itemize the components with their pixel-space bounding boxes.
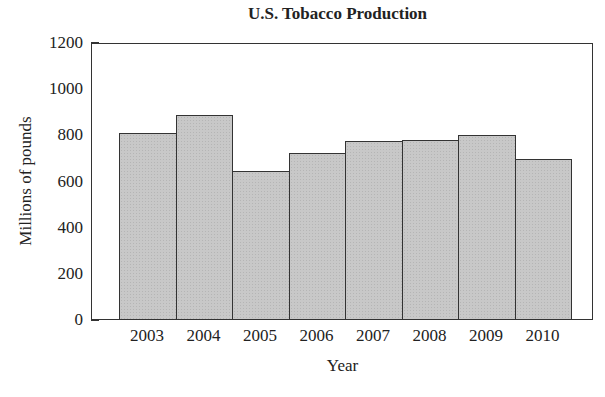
bar-2004 — [176, 115, 234, 319]
y-tick-label: 1200 — [49, 33, 83, 53]
y-axis-label: Millions of pounds — [16, 116, 36, 245]
y-tick-label: 600 — [58, 172, 84, 192]
x-tick-label: 2004 — [176, 326, 232, 346]
y-tick-label: 800 — [58, 125, 84, 145]
x-tick-label: 2006 — [289, 326, 345, 346]
bar-2006 — [289, 153, 347, 319]
x-tick-label: 2007 — [345, 326, 401, 346]
bar-2010 — [515, 159, 573, 319]
x-tick-label: 2008 — [402, 326, 458, 346]
y-tick-label: 0 — [75, 310, 84, 330]
x-tick-label: 2005 — [232, 326, 288, 346]
bar-2005 — [232, 171, 290, 319]
x-tick-label: 2010 — [515, 326, 571, 346]
x-axis-label: Year — [0, 356, 605, 376]
plot-area — [91, 43, 593, 320]
bar-2007 — [345, 141, 403, 319]
bar-2003 — [119, 133, 177, 319]
chart-title: U.S. Tobacco Production — [0, 4, 605, 24]
bar-2008 — [402, 140, 460, 319]
y-tick-label: 400 — [58, 218, 84, 238]
x-tick-label: 2009 — [458, 326, 514, 346]
y-tick-label: 200 — [58, 264, 84, 284]
x-tick-label: 2003 — [119, 326, 175, 346]
bar-2009 — [458, 135, 516, 319]
y-tick-label: 1000 — [49, 79, 83, 99]
